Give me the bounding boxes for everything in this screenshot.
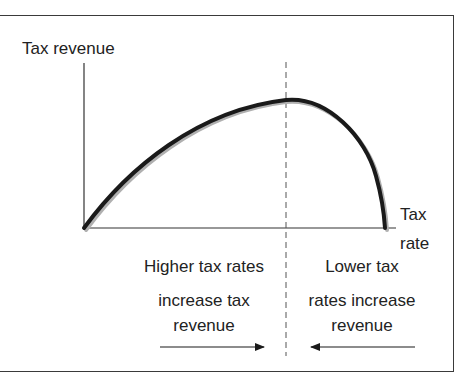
y-axis-label: Tax revenue (22, 40, 115, 57)
left-region-line3: revenue (124, 317, 284, 334)
x-axis-label-line1: Tax (400, 206, 426, 223)
left-region-line1: Higher tax rates (124, 258, 284, 275)
right-region-line3: revenue (292, 317, 432, 334)
x-axis-label-line2: rate (400, 235, 429, 252)
laffer-curve (84, 100, 385, 228)
left-region-line2: increase tax (124, 292, 284, 309)
right-region-line2: rates increase (292, 292, 432, 309)
right-region-line1: Lower tax (292, 258, 432, 275)
